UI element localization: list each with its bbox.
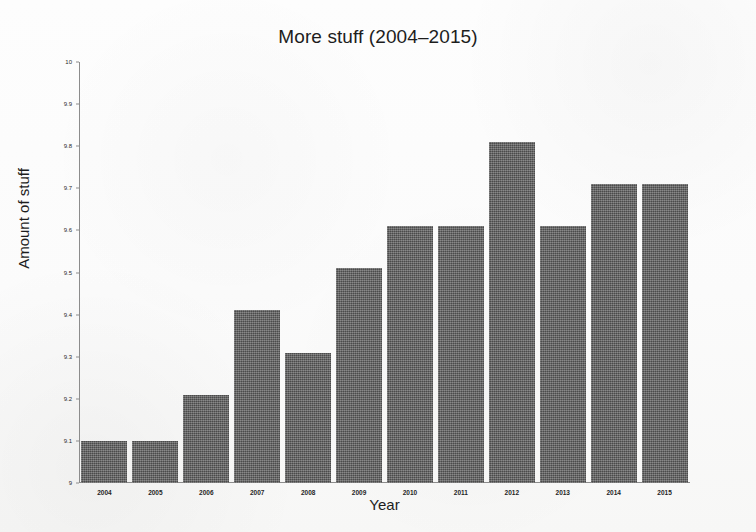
bar-slot: 2013 bbox=[537, 62, 588, 483]
y-tick-label: 9.1 bbox=[64, 438, 72, 444]
y-tick-label: 10 bbox=[65, 59, 72, 65]
bar bbox=[285, 353, 331, 484]
bar-slot: 2015 bbox=[639, 62, 690, 483]
bar-slot: 2008 bbox=[283, 62, 334, 483]
bar bbox=[132, 441, 178, 483]
x-tick-label: 2011 bbox=[454, 489, 468, 496]
x-tick-label: 2009 bbox=[352, 489, 366, 496]
x-tick-label: 2015 bbox=[657, 489, 671, 496]
x-tick-label: 2014 bbox=[606, 489, 620, 496]
y-tick-label: 9.4 bbox=[64, 312, 72, 318]
bar-slot: 2005 bbox=[130, 62, 181, 483]
x-tick-label: 2004 bbox=[97, 489, 111, 496]
chart-title: More stuff (2004–2015) bbox=[0, 26, 756, 48]
bar-slot: 2009 bbox=[334, 62, 385, 483]
x-tick-label: 2005 bbox=[148, 489, 162, 496]
y-tick-label: 9.5 bbox=[64, 270, 72, 276]
bar-slot: 2004 bbox=[79, 62, 130, 483]
x-tick-label: 2013 bbox=[556, 489, 570, 496]
y-tick-label: 9.7 bbox=[64, 185, 72, 191]
y-tick-label: 9.2 bbox=[64, 396, 72, 402]
bar-slot: 2006 bbox=[181, 62, 232, 483]
bar bbox=[234, 310, 280, 483]
plot-area: 99.19.29.39.49.59.69.79.89.910 200420052… bbox=[79, 62, 690, 483]
bar-slot: 2010 bbox=[385, 62, 436, 483]
bar-slot: 2007 bbox=[232, 62, 283, 483]
y-tick-label: 9.3 bbox=[64, 354, 72, 360]
y-tick-label: 9.8 bbox=[64, 143, 72, 149]
bar-series: 2004200520062007200820092010201120122013… bbox=[79, 62, 690, 483]
bar bbox=[183, 395, 229, 483]
x-axis-label: Year bbox=[79, 496, 690, 513]
bar bbox=[642, 184, 688, 483]
y-tick-label: 9.9 bbox=[64, 101, 72, 107]
bar bbox=[489, 142, 535, 483]
bar bbox=[591, 184, 637, 483]
bar-slot: 2014 bbox=[588, 62, 639, 483]
bar bbox=[336, 268, 382, 483]
y-tick-label: 9.6 bbox=[64, 227, 72, 233]
bar-slot: 2012 bbox=[486, 62, 537, 483]
bar bbox=[438, 226, 484, 483]
x-tick-label: 2006 bbox=[199, 489, 213, 496]
bar bbox=[540, 226, 586, 483]
y-tick-label: 9 bbox=[69, 480, 72, 486]
bar bbox=[387, 226, 433, 483]
y-axis-label: Amount of stuff bbox=[15, 134, 32, 304]
x-tick-label: 2008 bbox=[301, 489, 315, 496]
x-tick-label: 2007 bbox=[250, 489, 264, 496]
x-tick-label: 2010 bbox=[403, 489, 417, 496]
bar-slot: 2011 bbox=[435, 62, 486, 483]
bar bbox=[81, 441, 127, 483]
x-tick-label: 2012 bbox=[505, 489, 519, 496]
